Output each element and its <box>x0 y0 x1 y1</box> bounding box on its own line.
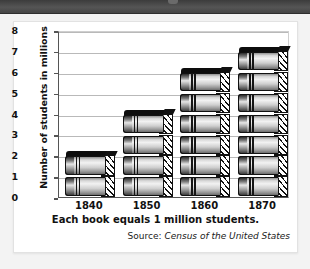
book-spine <box>180 136 189 154</box>
book-spine-band <box>137 177 138 195</box>
book-spine-band <box>194 73 195 91</box>
pictograph-figure: Number of students in millions 012345678… <box>14 22 297 252</box>
book-symbol <box>123 176 173 197</box>
book-symbol <box>238 51 288 72</box>
book-spine <box>238 115 247 133</box>
book-spine-band <box>252 52 253 70</box>
book-spine <box>65 177 74 195</box>
book-spine-band <box>191 156 192 174</box>
book-spine-band <box>252 115 253 133</box>
book-spine-band <box>134 156 135 174</box>
book-spine-band <box>249 73 250 91</box>
book-spine-band <box>137 115 138 133</box>
page-top-band <box>0 0 310 14</box>
y-axis-tick-label: 6 <box>0 67 18 78</box>
book-spine <box>123 177 132 195</box>
book-spine <box>238 177 247 195</box>
book-symbol <box>180 93 230 114</box>
book-spine <box>180 115 189 133</box>
book-spine <box>238 52 247 70</box>
book-spine-band <box>194 177 195 195</box>
book-symbol <box>180 176 230 197</box>
book-spine-band <box>249 156 250 174</box>
book-spine-band <box>194 156 195 174</box>
y-axis-tick-mark <box>54 198 58 200</box>
y-axis-tick-label: 5 <box>0 88 18 99</box>
book-spine <box>180 94 189 112</box>
book-spine <box>238 94 247 112</box>
book-spine-band <box>79 156 80 174</box>
book-spine-band <box>252 177 253 195</box>
plot-area <box>58 31 289 198</box>
top-band-gradient <box>0 0 310 13</box>
y-axis-tick-label: 3 <box>0 129 18 140</box>
book-spine-band <box>134 177 135 195</box>
book-spine-band <box>194 115 195 133</box>
book-symbol <box>238 155 288 176</box>
book-spine-band <box>249 177 250 195</box>
book-symbol <box>238 72 288 93</box>
book-symbol <box>238 176 288 197</box>
book-symbol <box>180 134 230 155</box>
book-symbol <box>65 155 115 176</box>
book-symbol <box>238 114 288 135</box>
book-spine-band <box>76 156 77 174</box>
book-spine-band <box>134 115 135 133</box>
y-axis-tick-label: 4 <box>0 109 18 120</box>
book-spine-band <box>249 115 250 133</box>
book-spine <box>238 73 247 91</box>
x-axis-tick-label: 1860 <box>174 200 234 211</box>
source-note: Source: Census of the United States <box>14 231 290 241</box>
book-symbol <box>180 72 230 93</box>
book-spine-band <box>191 73 192 91</box>
book-symbol <box>123 155 173 176</box>
book-symbol <box>123 134 173 155</box>
x-axis-tick-label: 1870 <box>232 200 292 211</box>
book-spine-band <box>76 177 77 195</box>
book-spine-band <box>191 136 192 154</box>
chart-card: Number of students in millions 012345678… <box>13 21 298 253</box>
book-spine <box>123 136 132 154</box>
y-axis-tick-label: 1 <box>0 171 18 182</box>
source-title: Census of the United States <box>164 231 290 241</box>
y-axis-tick-label: 8 <box>0 25 18 36</box>
top-band-notch <box>168 0 178 4</box>
page-background: Number of students in millions 012345678… <box>0 0 310 269</box>
book-spine-band <box>194 136 195 154</box>
y-axis-tick-label: 0 <box>0 192 18 203</box>
book-spine <box>180 73 189 91</box>
book-spine-band <box>134 136 135 154</box>
y-axis-title: Number of students in millions <box>38 23 49 193</box>
x-axis-tick-label: 1850 <box>117 200 177 211</box>
book-spine <box>238 136 247 154</box>
gridline <box>59 32 288 33</box>
book-spine-band <box>191 115 192 133</box>
book-stack <box>123 114 173 198</box>
x-axis-caption: Each book equals 1 million students. <box>14 214 297 225</box>
book-spine <box>123 115 132 133</box>
book-spine <box>65 156 74 174</box>
book-spine-band <box>137 156 138 174</box>
book-spine <box>238 156 247 174</box>
book-spine-band <box>79 177 80 195</box>
book-spine-band <box>252 136 253 154</box>
book-spine-band <box>194 94 195 112</box>
book-spine-band <box>191 177 192 195</box>
book-spine <box>180 156 189 174</box>
book-spine-band <box>249 52 250 70</box>
book-spine-band <box>191 94 192 112</box>
book-spine <box>180 177 189 195</box>
book-stack <box>238 51 288 197</box>
book-spine-band <box>249 136 250 154</box>
book-symbol <box>180 155 230 176</box>
book-symbol <box>180 114 230 135</box>
book-spine-band <box>252 94 253 112</box>
book-symbol <box>123 114 173 135</box>
book-spine-band <box>137 136 138 154</box>
y-axis-tick-label: 7 <box>0 46 18 57</box>
book-symbol <box>238 134 288 155</box>
book-spine-band <box>249 94 250 112</box>
book-stack <box>180 72 230 197</box>
book-spine-band <box>252 73 253 91</box>
book-stack <box>65 155 115 197</box>
